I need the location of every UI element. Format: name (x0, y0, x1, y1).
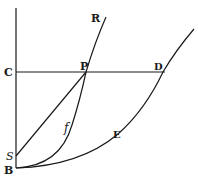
label-d: D (154, 61, 163, 72)
label-b: B (4, 164, 13, 177)
label-e: E (113, 129, 121, 140)
outer-curve-bed (16, 29, 194, 168)
label-r: R (91, 12, 101, 25)
geometric-diagram: R C P D S B E f (0, 0, 198, 181)
label-c: C (4, 66, 13, 79)
inner-curve-bpr (16, 17, 106, 168)
label-p: P (80, 60, 88, 73)
label-s: S (6, 150, 14, 163)
